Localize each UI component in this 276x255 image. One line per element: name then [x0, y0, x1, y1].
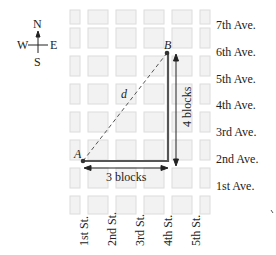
- distance-label: d: [121, 87, 127, 102]
- city-block: [70, 168, 80, 188]
- compass-north-label: N: [33, 17, 42, 32]
- city-block: [200, 196, 210, 214]
- city-block: [144, 196, 164, 214]
- city-block: [200, 10, 210, 24]
- street-label: 5th St.: [189, 215, 204, 246]
- compass-rose: [28, 31, 48, 53]
- city-block: [116, 56, 136, 76]
- city-block: [144, 10, 164, 24]
- city-block: [172, 168, 192, 188]
- city-block: [200, 112, 210, 132]
- city-block: [70, 10, 80, 24]
- city-block: [200, 56, 210, 76]
- city-block: [88, 28, 108, 48]
- point-a-dot: [81, 159, 86, 164]
- street-label: 3rd St.: [133, 214, 148, 246]
- city-block: [200, 84, 210, 104]
- street-label: 2nd St.: [105, 212, 120, 246]
- city-block: [70, 196, 80, 214]
- city-block: [200, 168, 210, 188]
- city-block: [70, 56, 80, 76]
- point-b-label: B: [164, 38, 171, 53]
- avenue-label: 2nd Ave.: [216, 152, 258, 166]
- city-block: [70, 84, 80, 104]
- city-block: [88, 56, 108, 76]
- compass-south-label: S: [34, 55, 41, 70]
- city-block: [88, 84, 108, 104]
- vertical-distance-label: 4 blocks: [180, 87, 195, 127]
- city-block: [172, 140, 192, 160]
- city-block: [88, 140, 108, 160]
- avenue-label: 5th Ave.: [216, 72, 256, 86]
- city-block: [172, 196, 192, 214]
- compass-east-label: E: [50, 38, 57, 53]
- city-block: [70, 112, 80, 132]
- stray-mark: [271, 210, 273, 213]
- city-block: [116, 28, 136, 48]
- city-block: [116, 140, 136, 160]
- avenue-label: 3rd Ave.: [216, 125, 256, 139]
- city-block: [144, 112, 164, 132]
- city-block: [144, 28, 164, 48]
- city-block: [172, 10, 192, 24]
- point-a-label: A: [74, 147, 81, 162]
- city-block: [144, 56, 164, 76]
- street-label: 4th St.: [161, 215, 176, 246]
- city-block: [144, 84, 164, 104]
- city-block: [70, 28, 80, 48]
- city-block: [88, 112, 108, 132]
- city-block: [144, 140, 164, 160]
- city-block: [88, 10, 108, 24]
- city-block: [116, 10, 136, 24]
- city-block: [172, 28, 192, 48]
- avenue-label: 4th Ave.: [216, 98, 256, 112]
- street-label: 1st St.: [77, 216, 92, 246]
- avenue-label: 7th Ave.: [216, 18, 256, 32]
- compass-west-label: W: [17, 38, 28, 53]
- city-block: [200, 140, 210, 160]
- avenue-label: 6th Ave.: [216, 45, 256, 59]
- horizontal-distance-label: 3 blocks: [106, 170, 146, 185]
- city-block: [200, 28, 210, 48]
- avenue-label: 1st Ave.: [216, 179, 254, 193]
